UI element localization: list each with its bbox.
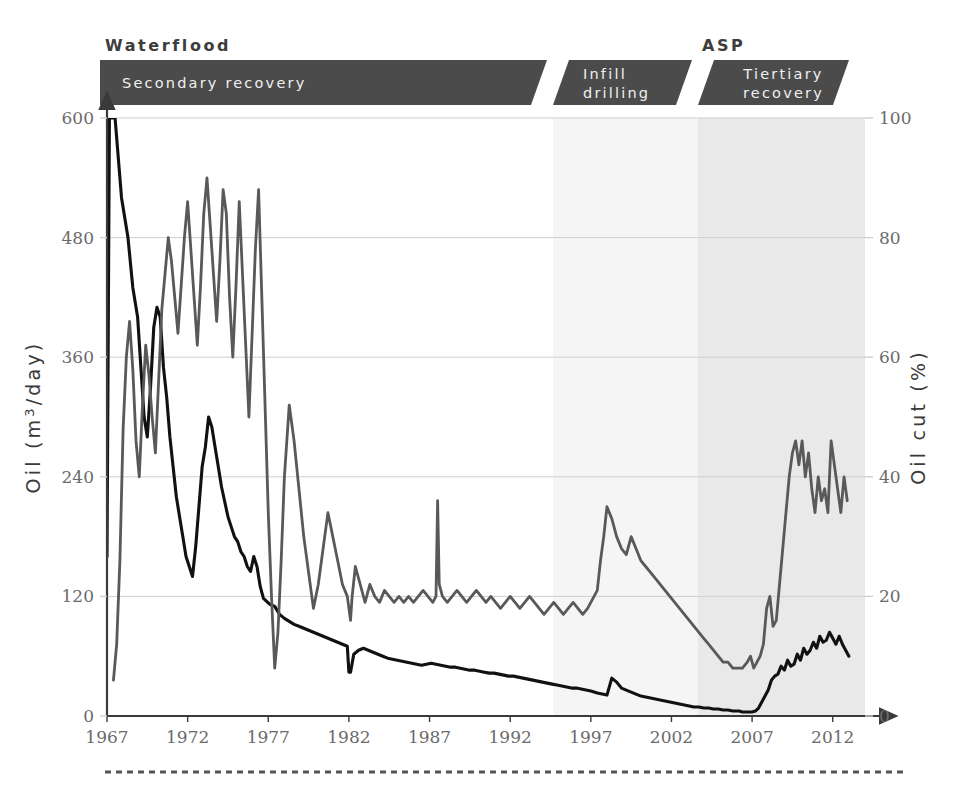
y-tick-label: 360 xyxy=(62,347,94,367)
y-tick-label: 600 xyxy=(62,108,94,128)
y-tick-label: 480 xyxy=(62,228,94,248)
x-tick-label: 1972 xyxy=(166,727,209,747)
phase-band-label-1-1: drilling xyxy=(583,85,650,101)
oil-production-chart: Secondary recoveryInfilldrillingTiertiar… xyxy=(0,0,953,804)
y2-tick-label: 40 xyxy=(879,467,901,487)
y2-tick-label: 0 xyxy=(879,706,890,726)
x-tick-label: 1977 xyxy=(247,727,290,747)
y-axis-title: Oil (m3/day) xyxy=(22,341,44,494)
y2-axis-title: Oil cut (%) xyxy=(907,349,929,485)
x-tick-label: 1982 xyxy=(327,727,370,747)
x-tick-label: 1992 xyxy=(489,727,532,747)
y-tick-label: 240 xyxy=(62,467,94,487)
y-tick-label: 0 xyxy=(83,706,94,726)
x-tick-label: 2012 xyxy=(811,727,854,747)
x-tick-label: 1987 xyxy=(408,727,451,747)
y2-tick-label: 80 xyxy=(879,228,901,248)
x-tick-label: 2002 xyxy=(650,727,693,747)
y2-tick-label: 60 xyxy=(879,347,901,367)
phase-heading-0: Waterflood xyxy=(105,36,231,55)
x-tick-label: 2007 xyxy=(730,727,773,747)
x-tick-label: 1997 xyxy=(569,727,612,747)
phase-heading-2: ASP xyxy=(702,36,745,55)
figure-canvas: Secondary recoveryInfilldrillingTiertiar… xyxy=(0,0,953,804)
phase-headings: WaterfloodASP xyxy=(105,36,745,55)
phase-band-label-2-0: Tiertiary xyxy=(742,66,823,82)
phase-shade-2 xyxy=(698,118,865,716)
phase-shading xyxy=(553,118,865,716)
y2-tick-label: 20 xyxy=(879,586,901,606)
phase-shade-1 xyxy=(553,118,698,716)
x-tick-label: 1967 xyxy=(85,727,128,747)
phase-band-label-2-1: recovery xyxy=(743,85,824,101)
phase-band-label-1-0: Infill xyxy=(583,66,627,82)
y2-tick-label: 100 xyxy=(879,108,911,128)
phase-band-label-0: Secondary recovery xyxy=(122,75,306,91)
y-tick-label: 120 xyxy=(62,586,94,606)
